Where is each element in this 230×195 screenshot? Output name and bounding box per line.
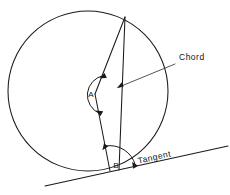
angle-a-label: A [88,90,94,99]
radius-to-chord-top [95,17,125,94]
circle-geometry-figure: A B Chord Tangent [0,0,230,195]
angle-b-arc [106,146,136,165]
tangent-label: Tangent [137,149,172,166]
angle-b-label: B [113,161,118,170]
chord-label: Chord [179,52,205,62]
radius-to-tangency-point [95,94,110,171]
geometry-diagram-canvas: A B Chord Tangent [0,0,230,195]
